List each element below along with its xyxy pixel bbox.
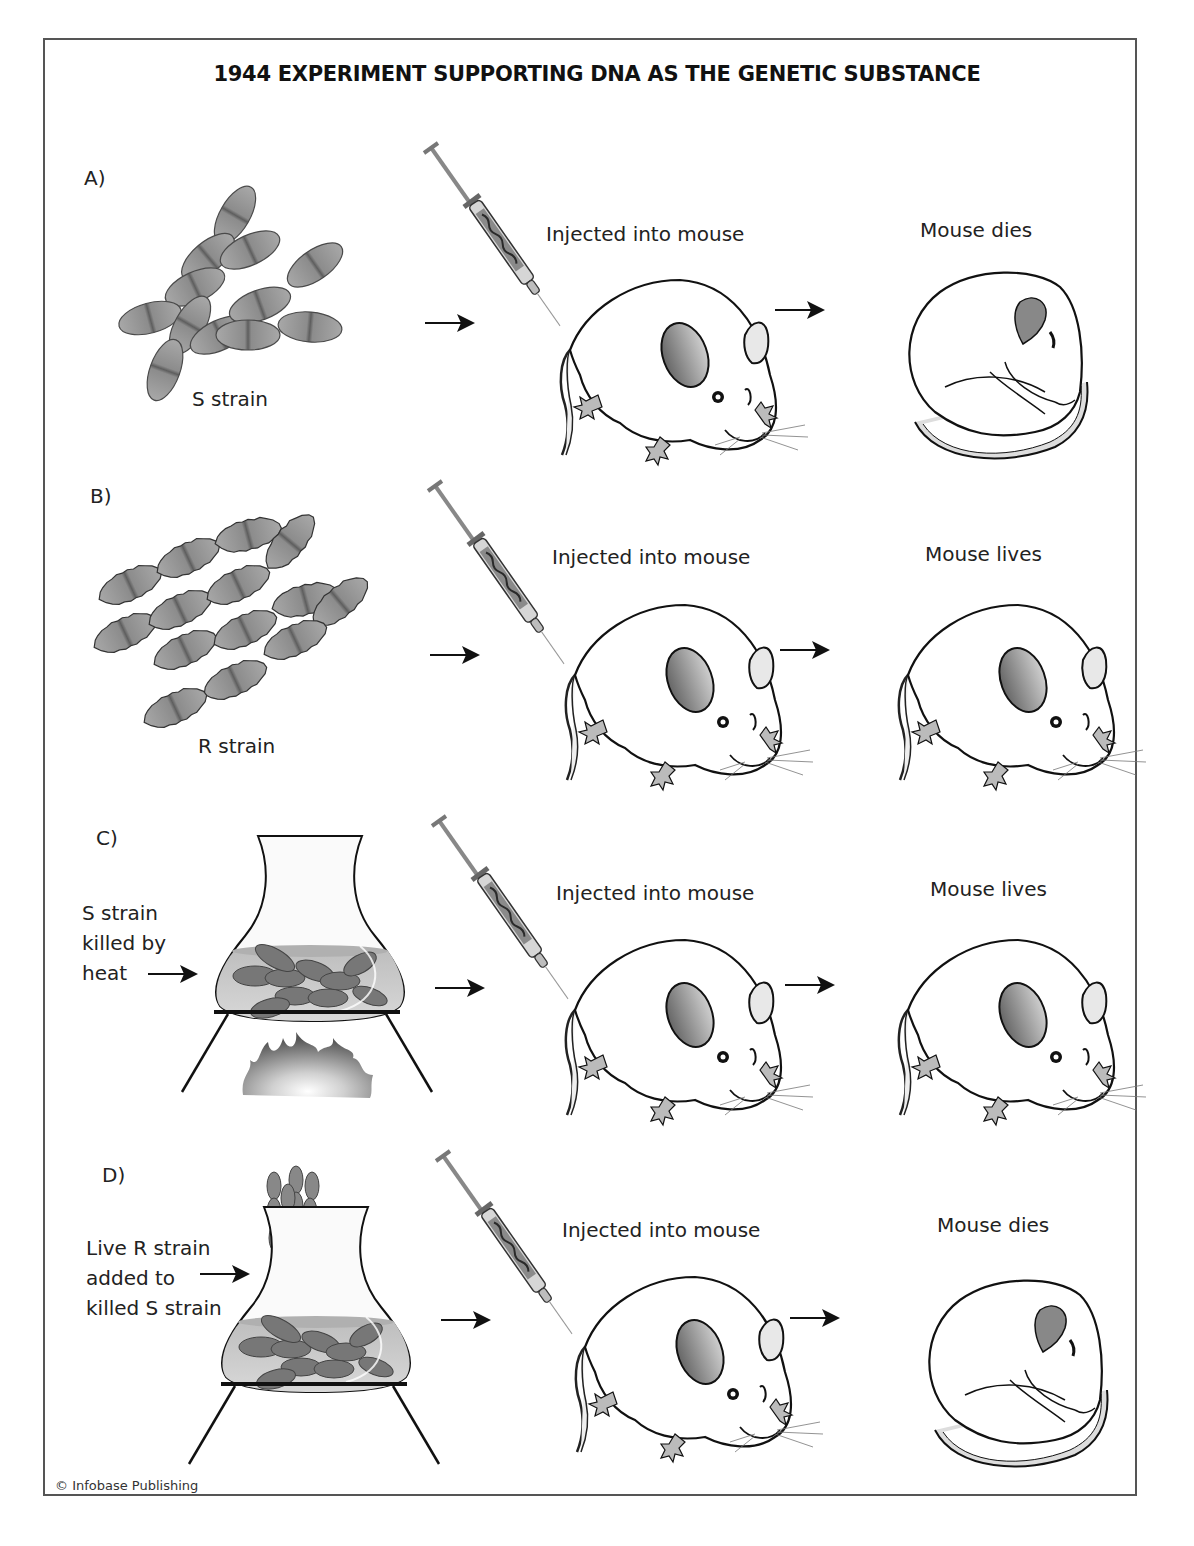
outcome-label: Mouse dies — [920, 218, 1032, 242]
mouse-alive-icon — [878, 590, 1158, 790]
outcome-label: Mouse lives — [930, 877, 1047, 901]
step-label: Injected into mouse — [546, 222, 744, 246]
r-strain-bacteria-icon — [100, 530, 360, 730]
mixed-flask-icon — [216, 1207, 426, 1397]
side-note-line: killed by — [82, 928, 166, 958]
panel-letter: C) — [96, 826, 118, 850]
mouse-dead-icon — [915, 1270, 1115, 1480]
arrow-icon — [780, 640, 840, 660]
mouse-dead-icon — [895, 262, 1095, 472]
arrow-icon — [148, 964, 208, 984]
mouse-alive-icon — [545, 925, 825, 1125]
step-label: Injected into mouse — [562, 1218, 760, 1242]
step-label: Injected into mouse — [552, 545, 750, 569]
mouse-alive-icon — [540, 265, 820, 465]
outcome-label: Mouse lives — [925, 542, 1042, 566]
figure-title: 1944 EXPERIMENT SUPPORTING DNA AS THE GE… — [0, 62, 1194, 86]
stand-icon — [221, 1384, 451, 1474]
s-strain-bacteria-icon — [90, 175, 320, 395]
mouse-alive-icon — [545, 590, 825, 790]
mouse-alive-icon — [878, 925, 1158, 1125]
flame-icon — [238, 1030, 378, 1100]
arrow-icon — [790, 1308, 850, 1328]
heated-flask-icon — [210, 836, 420, 1026]
panel-letter: D) — [102, 1163, 125, 1187]
side-note-line: killed S strain — [86, 1293, 222, 1323]
copyright-notice: © Infobase Publishing — [55, 1478, 198, 1493]
side-note-line: Live R strain — [86, 1233, 222, 1263]
arrow-icon — [785, 975, 845, 995]
arrow-icon — [775, 300, 835, 320]
side-note-line: S strain — [82, 898, 166, 928]
outcome-label: Mouse dies — [937, 1213, 1049, 1237]
panel-letter: B) — [90, 484, 112, 508]
step-label: Injected into mouse — [556, 881, 754, 905]
sample-label: S strain — [192, 387, 268, 411]
sample-label: R strain — [198, 734, 275, 758]
mouse-alive-icon — [555, 1262, 835, 1462]
